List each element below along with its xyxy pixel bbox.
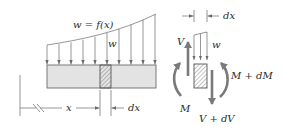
moment-left-label: M (179, 103, 191, 114)
moment-left-arrow (174, 63, 181, 96)
element-free-body: dx w V V + dV M M + dM (174, 10, 273, 124)
loaded-beam: w = f(x) w x dx (20, 14, 156, 116)
fbd-element (194, 64, 207, 88)
moment-right-label: M + dM (230, 70, 273, 81)
load-function-label: w = f(x) (73, 19, 114, 30)
beam-diagram: w = f(x) w x dx dx w (0, 0, 285, 132)
dx-label: dx (128, 102, 140, 113)
shear-left-label: V (177, 36, 186, 47)
x-label: x (66, 102, 72, 113)
load-symbol-label: w (108, 38, 117, 49)
fbd-load-label: w (212, 39, 221, 50)
moment-right-arrow (220, 63, 228, 97)
shear-right-label: V + dV (199, 113, 236, 124)
beam-element (100, 65, 111, 88)
fbd-dx-label: dx (223, 10, 235, 21)
